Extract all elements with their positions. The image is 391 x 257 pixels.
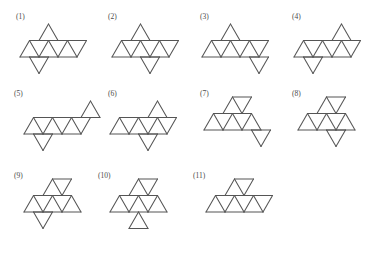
net-edge bbox=[327, 130, 337, 147]
net-edge bbox=[110, 118, 120, 135]
net-edge bbox=[39, 41, 49, 58]
net-edge bbox=[240, 41, 250, 58]
net-edge bbox=[91, 101, 101, 118]
figure-net-1 bbox=[18, 22, 89, 76]
net-edge bbox=[235, 196, 245, 213]
net-edge bbox=[110, 196, 120, 213]
net-edge bbox=[43, 196, 53, 213]
figure-label-3: (3) bbox=[200, 13, 209, 21]
net-edge bbox=[242, 114, 252, 131]
net-edge bbox=[148, 179, 158, 196]
net-edge bbox=[317, 97, 327, 114]
net-edge bbox=[39, 24, 49, 41]
net-edge bbox=[332, 24, 342, 41]
figure-net-2 bbox=[110, 22, 181, 76]
net-edge bbox=[242, 97, 252, 114]
net-edge bbox=[129, 196, 139, 213]
figure-net-11 bbox=[204, 177, 275, 214]
net-edge bbox=[148, 118, 158, 135]
net-edge bbox=[34, 134, 44, 151]
net-edge bbox=[141, 41, 151, 58]
figure-label-5: (5) bbox=[14, 90, 23, 98]
net-edge bbox=[252, 114, 262, 131]
net-edge bbox=[221, 24, 231, 41]
net-edge bbox=[139, 179, 149, 196]
net-edge bbox=[250, 57, 260, 74]
figure-net-7 bbox=[202, 95, 273, 149]
net-edge bbox=[122, 41, 132, 58]
net-edge bbox=[24, 196, 34, 213]
net-edge bbox=[233, 97, 243, 114]
net-edge bbox=[43, 212, 53, 229]
net-edge bbox=[20, 41, 30, 58]
net-edge bbox=[24, 118, 34, 135]
nets-sheet: (1)(2)(3)(4)(5)(6)(7)(8)(9)(10)(11) bbox=[0, 0, 391, 257]
net-edge bbox=[120, 196, 130, 213]
net-edge bbox=[254, 196, 264, 213]
net-edge bbox=[313, 41, 323, 58]
net-edge bbox=[250, 41, 260, 58]
net-edge bbox=[206, 196, 216, 213]
net-edge bbox=[259, 57, 269, 74]
net-edge bbox=[150, 57, 160, 74]
net-edge bbox=[62, 196, 72, 213]
net-edge bbox=[141, 57, 151, 74]
net-edge bbox=[351, 41, 361, 58]
net-edge bbox=[346, 114, 356, 131]
net-edge bbox=[158, 196, 168, 213]
net-edge bbox=[58, 41, 68, 58]
net-edge bbox=[160, 41, 170, 58]
net-edge bbox=[30, 41, 40, 58]
net-edge bbox=[332, 41, 342, 58]
net-edge bbox=[252, 130, 262, 147]
net-edge bbox=[336, 114, 346, 131]
net-edge bbox=[139, 196, 149, 213]
net-edge bbox=[342, 41, 352, 58]
net-edge bbox=[49, 24, 59, 41]
figure-net-4 bbox=[292, 22, 363, 76]
net-edge bbox=[53, 179, 63, 196]
net-edge bbox=[131, 41, 141, 58]
net-edge bbox=[129, 212, 139, 229]
net-edge bbox=[77, 41, 87, 58]
net-edge bbox=[53, 196, 63, 213]
net-edge bbox=[148, 134, 158, 151]
net-edge bbox=[327, 97, 337, 114]
net-edge bbox=[62, 179, 72, 196]
net-edge bbox=[235, 179, 245, 196]
figure-net-9 bbox=[22, 177, 83, 231]
net-edge bbox=[43, 118, 53, 135]
net-edge bbox=[313, 57, 323, 74]
net-edge bbox=[39, 57, 49, 74]
net-edge bbox=[204, 114, 214, 131]
net-edge bbox=[233, 114, 243, 131]
figure-label-1: (1) bbox=[16, 13, 25, 21]
net-edge bbox=[81, 101, 91, 118]
net-edge bbox=[53, 118, 63, 135]
net-edge bbox=[139, 134, 149, 151]
net-edge bbox=[68, 41, 78, 58]
net-edge bbox=[141, 24, 151, 41]
net-edge bbox=[212, 41, 222, 58]
net-edge bbox=[327, 114, 337, 131]
net-edge bbox=[304, 41, 314, 58]
net-edge bbox=[129, 179, 139, 196]
net-edge bbox=[202, 41, 212, 58]
net-edge bbox=[231, 24, 241, 41]
net-edge bbox=[214, 114, 224, 131]
net-edge bbox=[139, 118, 149, 135]
net-edge bbox=[43, 134, 53, 151]
net-edge bbox=[34, 196, 44, 213]
figure-net-6 bbox=[108, 99, 179, 153]
net-edge bbox=[294, 41, 304, 58]
net-edge bbox=[49, 41, 59, 58]
net-edge bbox=[336, 97, 346, 114]
figure-label-4: (4) bbox=[292, 13, 301, 21]
net-edge bbox=[148, 101, 158, 118]
net-edge bbox=[223, 114, 233, 131]
net-edge bbox=[221, 41, 231, 58]
figure-net-10 bbox=[108, 177, 169, 231]
net-edge bbox=[231, 41, 241, 58]
net-edge bbox=[62, 118, 72, 135]
net-edge bbox=[336, 130, 346, 147]
